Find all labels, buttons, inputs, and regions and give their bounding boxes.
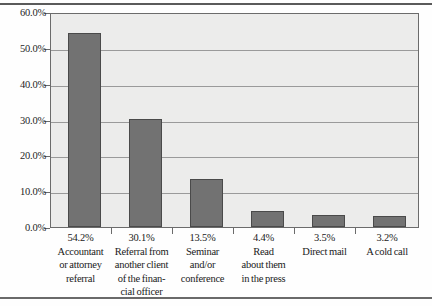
data-label-1: 30.1% xyxy=(111,232,172,245)
y-axis-label-50: 50.0% xyxy=(2,44,46,54)
category-label-1-line4: cial officer xyxy=(111,286,172,299)
y-axis-label-20: 20.0% xyxy=(2,151,46,161)
y-axis-label-10: 10.0% xyxy=(2,187,46,197)
x-category-referral-from-another-client: 30.1% Referral from another client of th… xyxy=(111,232,172,299)
category-label-5: A cold call xyxy=(355,246,419,259)
category-label-2-line2: and/or xyxy=(172,259,233,272)
category-label-3: Read xyxy=(233,246,294,259)
gridline-10 xyxy=(51,193,418,194)
category-label-1-line3: of the finan- xyxy=(111,273,172,286)
x-category-seminar-and-or-conference: 13.5% Seminar and/or conference xyxy=(172,232,233,285)
bar-chart-figure: 60.0% 50.0% 40.0% 30.0% 20.0% 10.0% 0.0%… xyxy=(0,0,432,306)
category-label-1-line2: another client xyxy=(111,259,172,272)
bar-accountant-or-attorney-referral xyxy=(68,33,101,227)
data-label-2: 13.5% xyxy=(172,232,233,245)
category-label-4: Direct mail xyxy=(294,246,355,259)
data-label-4: 3.5% xyxy=(294,232,355,245)
x-category-a-cold-call: 3.2% A cold call xyxy=(355,232,419,258)
gridline-30 xyxy=(51,122,418,123)
category-label-0-line3: referral xyxy=(50,273,111,286)
bar-seminar-and-or-conference xyxy=(190,179,223,227)
data-label-0: 54.2% xyxy=(50,232,111,245)
x-category-accountant-or-attorney-referral: 54.2% Accountant or attorney referral xyxy=(50,232,111,285)
gridline-40 xyxy=(51,86,418,87)
gridline-20 xyxy=(51,157,418,158)
y-axis-label-0: 0.0% xyxy=(2,223,46,233)
bar-a-cold-call xyxy=(373,216,406,228)
bar-direct-mail xyxy=(312,215,345,228)
y-axis-label-60: 60.0% xyxy=(2,8,46,18)
y-axis-label-30: 30.0% xyxy=(2,116,46,126)
x-category-read-about-them-in-the-press: 4.4% Read about them in the press xyxy=(233,232,294,285)
page-rule-top xyxy=(0,3,432,5)
category-label-3-line3: in the press xyxy=(233,273,294,286)
bar-referral-from-another-client xyxy=(129,119,162,227)
bar-read-about-them-in-the-press xyxy=(251,211,284,227)
x-category-direct-mail: 3.5% Direct mail xyxy=(294,232,355,258)
category-label-2: Seminar xyxy=(172,246,233,259)
category-label-2-line3: conference xyxy=(172,273,233,286)
category-label-0: Accountant xyxy=(50,246,111,259)
y-axis-label-40: 40.0% xyxy=(2,80,46,90)
category-label-3-line2: about them xyxy=(233,259,294,272)
category-label-0-line2: or attorney xyxy=(50,259,111,272)
data-label-3: 4.4% xyxy=(233,232,294,245)
data-label-5: 3.2% xyxy=(355,232,419,245)
category-label-1: Referral from xyxy=(111,246,172,259)
gridline-50 xyxy=(51,50,418,51)
page-rule-bottom xyxy=(0,297,432,299)
plot-area xyxy=(50,13,419,228)
